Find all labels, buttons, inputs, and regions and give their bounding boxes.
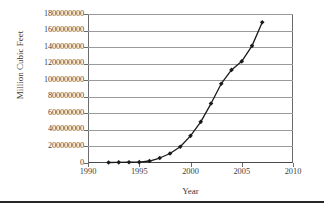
gridline (88, 97, 293, 98)
gridline (88, 113, 293, 114)
gridline (88, 130, 293, 131)
y-tick-label: 1400000000 (0, 43, 84, 51)
chart-figure: 0200000000400000000600000000800000000100… (0, 0, 324, 215)
y-tick-label: 400000000 (0, 125, 84, 133)
x-tick-label: 2000 (171, 167, 211, 176)
x-tick-label: 1995 (119, 167, 159, 176)
y-tick-label: 800000000 (0, 92, 84, 100)
y-tick-label: 600000000 (0, 109, 84, 117)
bottom-divider (0, 201, 324, 203)
gridline (88, 14, 293, 15)
x-tick-label: 1990 (68, 167, 108, 176)
gridline (88, 146, 293, 147)
y-tick-label: 0 (0, 159, 84, 167)
plot-frame (88, 14, 293, 163)
y-tick-label: 1200000000 (0, 59, 84, 67)
x-tick-mark (242, 163, 243, 167)
x-axis-title: Year (88, 186, 293, 196)
x-tick-mark (191, 163, 192, 167)
x-tick-mark (139, 163, 140, 167)
x-tick-mark (293, 163, 294, 167)
y-tick-label: 1600000000 (0, 26, 84, 34)
x-tick-label: 2010 (273, 167, 313, 176)
gridline (88, 47, 293, 48)
y-tick-label: 200000000 (0, 142, 84, 150)
gridline (88, 64, 293, 65)
y-axis-title: Million Cubic Feet (15, 0, 25, 130)
plot-area (88, 14, 293, 163)
x-tick-mark (88, 163, 89, 167)
gridline (88, 31, 293, 32)
y-tick-label: 1000000000 (0, 76, 84, 84)
y-tick-label: 1800000000 (0, 10, 84, 18)
x-tick-label: 2005 (222, 167, 262, 176)
y-axis: 0200000000400000000600000000800000000100… (0, 0, 84, 215)
gridline (88, 80, 293, 81)
